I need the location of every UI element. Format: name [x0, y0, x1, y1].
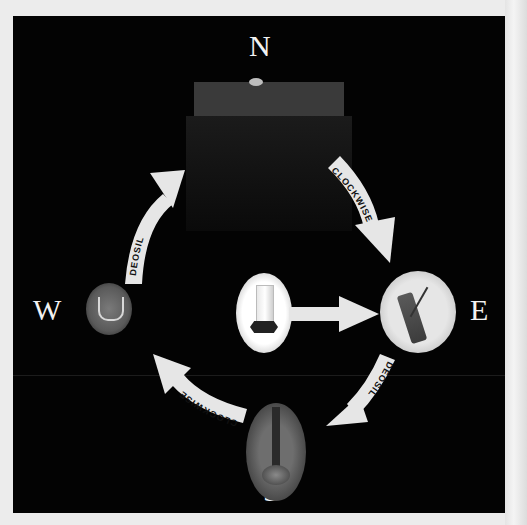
arrow-center-to-east [289, 296, 379, 332]
page-edge [505, 0, 527, 525]
arrow-west-to-north: DEOSIL [125, 170, 185, 284]
arrow-east-to-south: DEOSIL [326, 354, 395, 426]
circle-arrows: DEOSIL CLOCKWISE DEOSIL CLOCKWISE [13, 16, 505, 513]
arrow-south-to-west: CLOCKWISE [153, 354, 247, 429]
diagram-plate: N E S W DEOSIL [13, 16, 505, 513]
arrow-north-to-east: CLOCKWISE [328, 156, 395, 263]
